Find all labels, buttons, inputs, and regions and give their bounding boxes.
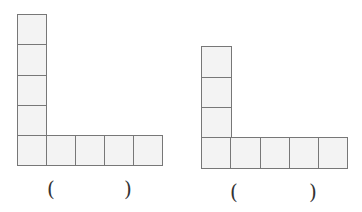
answer-open-paren: ( <box>230 182 238 202</box>
answer-open-paren: ( <box>47 179 55 199</box>
square <box>17 105 47 136</box>
square <box>46 135 76 166</box>
answer-close-paren: ) <box>124 179 132 199</box>
square <box>201 107 232 138</box>
square <box>104 135 134 166</box>
square <box>318 137 348 169</box>
square <box>17 44 47 76</box>
answer-close-paren: ) <box>309 182 317 202</box>
square <box>17 75 47 106</box>
square <box>17 135 47 166</box>
square <box>201 137 232 169</box>
square <box>17 14 47 45</box>
square <box>230 137 261 169</box>
square <box>75 135 105 166</box>
square <box>133 135 163 166</box>
square <box>201 77 232 108</box>
square <box>201 46 232 78</box>
square <box>260 137 290 169</box>
square <box>289 137 320 169</box>
